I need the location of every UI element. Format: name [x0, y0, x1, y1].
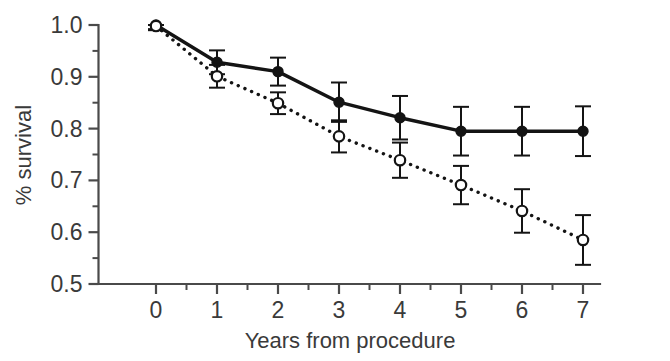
data-point-marker-open [456, 180, 466, 190]
x-tick-label: 6 [516, 297, 529, 323]
y-axis-tick-labels: 0.50.60.70.80.91.0 [51, 12, 83, 297]
y-tick-label: 0.9 [51, 64, 83, 90]
x-tick-label: 7 [577, 297, 590, 323]
survival-chart-figure: 0.50.60.70.80.91.0 01234567 Years from p… [0, 0, 670, 361]
x-tick-label: 4 [394, 297, 407, 323]
y-tick-label: 0.5 [51, 271, 83, 297]
chart-canvas: 0.50.60.70.80.91.0 01234567 Years from p… [0, 0, 670, 361]
data-point-marker-filled [517, 126, 527, 136]
data-point-marker-open [517, 206, 527, 216]
data-point-marker-filled [395, 113, 405, 123]
data-point-marker-filled [334, 97, 344, 107]
data-point-marker-open [395, 155, 405, 165]
x-tick-label: 3 [333, 297, 346, 323]
data-series-group [148, 20, 591, 265]
data-point-marker-filled [456, 126, 466, 136]
data-point-marker-open [273, 98, 283, 108]
data-point-marker-open [578, 235, 588, 245]
axis-spines [99, 25, 601, 284]
x-tick-label: 0 [150, 297, 163, 323]
y-tick-label: 0.7 [51, 167, 83, 193]
data-point-marker-open [334, 131, 344, 141]
x-tick-label: 2 [272, 297, 285, 323]
axes [89, 25, 601, 294]
y-tick-label: 0.6 [51, 219, 83, 245]
data-point-marker-open [212, 71, 222, 81]
data-point-marker-filled [273, 67, 283, 77]
y-tick-label: 0.8 [51, 116, 83, 142]
y-tick-label: 1.0 [51, 12, 83, 38]
x-axis-title: Years from procedure [245, 328, 456, 353]
y-axis-title: % survival [11, 105, 36, 205]
data-point-marker-filled [578, 126, 588, 136]
x-tick-label: 5 [455, 297, 468, 323]
x-tick-label: 1 [211, 297, 224, 323]
x-axis-tick-labels: 01234567 [150, 297, 590, 323]
data-point-marker-open [151, 21, 161, 31]
